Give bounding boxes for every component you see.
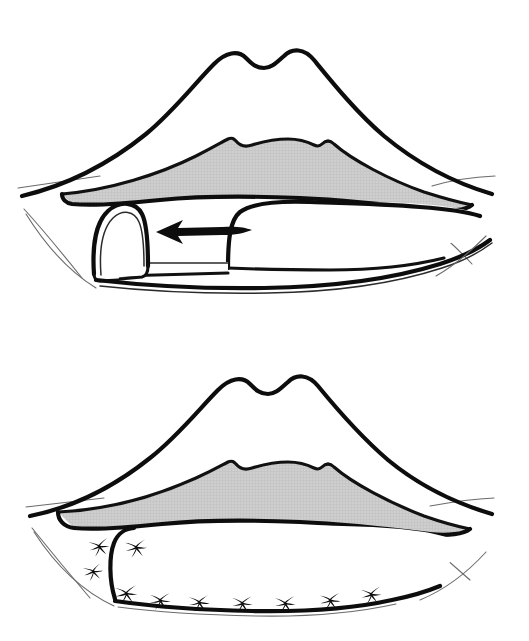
- upper-panel-drawing: [0, 0, 529, 330]
- lower-panel-drawing: [0, 330, 529, 641]
- sutured-closure-panel: [0, 330, 529, 641]
- suture-mark: [88, 538, 111, 557]
- reconstructed-lower-lip-fill: [109, 526, 468, 613]
- figure-root: [0, 0, 529, 641]
- chin-contour-lower-panel: [34, 532, 114, 606]
- upper-lip-vermilion-fill-lower-panel: [58, 461, 470, 535]
- suture-mark: [82, 563, 104, 582]
- skin-crease-left-chin-lower: [32, 528, 90, 598]
- flap-advancement-panel: [0, 0, 529, 330]
